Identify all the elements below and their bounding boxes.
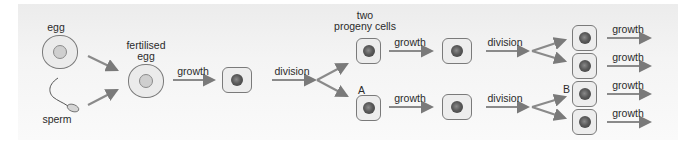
egg-cell (42, 35, 78, 69)
arrow-split-1 (532, 40, 565, 51)
nucleus (363, 102, 375, 114)
label-sperm: sperm (42, 114, 71, 125)
label-growth-final-1: growth (612, 24, 644, 35)
label-growth-final-4: growth (612, 108, 644, 119)
label-progeny-cells: progeny cells (334, 21, 396, 32)
label-division-1: division (274, 66, 309, 77)
progeny-cell-a (356, 95, 381, 121)
label-growth-top: growth (394, 37, 426, 48)
progeny-cell-top (356, 38, 381, 64)
label-division-top: division (487, 37, 522, 48)
arrow-split-3 (532, 97, 565, 107)
final-cell-4 (572, 109, 597, 135)
arrow-split-2 (532, 51, 565, 61)
sperm-icon (50, 78, 80, 113)
label-division-bottom: division (487, 93, 522, 104)
fertilised-egg-cell (128, 64, 164, 98)
label-growth-final-3: growth (612, 80, 644, 91)
grown-cell-bottom (442, 94, 472, 120)
arrow-split-bottom (317, 80, 347, 96)
nucleus (579, 88, 591, 100)
label-growth-1: growth (177, 66, 209, 77)
final-cell-1 (572, 25, 597, 51)
arrow-split-top (317, 64, 347, 80)
nucleus (451, 101, 463, 113)
arrow-sperm-to-fertilised (88, 90, 117, 105)
nucleus (579, 60, 591, 72)
fertilised-egg-nucleus (139, 74, 153, 88)
arrow-egg-to-fertilised (88, 56, 117, 70)
label-b: B (563, 84, 570, 95)
final-cell-3-b (572, 81, 597, 107)
nucleus (579, 116, 591, 128)
nucleus (231, 74, 243, 86)
label-growth-bottom: growth (394, 93, 426, 104)
egg-nucleus (53, 45, 67, 59)
nucleus (579, 32, 591, 44)
grown-cell-top (442, 38, 472, 64)
label-fertilised-egg: egg (137, 51, 155, 62)
nucleus (363, 45, 375, 57)
grown-cell (222, 67, 252, 93)
final-cell-2 (572, 53, 597, 79)
label-growth-final-2: growth (612, 52, 644, 63)
nucleus (451, 45, 463, 57)
label-egg: egg (47, 22, 65, 33)
arrow-split-4 (532, 107, 565, 118)
